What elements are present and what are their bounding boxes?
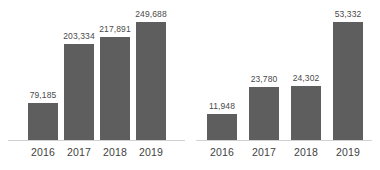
bar — [136, 22, 166, 140]
bar-slot: 79,185 — [26, 6, 60, 140]
bar — [207, 114, 237, 140]
x-axis-tick-labels: 2016 2017 2018 2019 — [0, 145, 190, 159]
bar-slot: 203,334 — [62, 6, 96, 140]
bar-chart-panel-right: 11,948 23,780 24,302 53,332 2016 2017 20… — [190, 0, 380, 170]
x-axis-line — [8, 140, 185, 141]
bar-slot: 53,332 — [330, 6, 366, 140]
axis-tick-label: 2017 — [246, 145, 282, 159]
axis-tick-label: 2016 — [204, 145, 240, 159]
bar-chart-panel-left: 79,185 203,334 217,891 249,688 2016 2017… — [0, 0, 190, 170]
bar-slot: 24,302 — [288, 6, 324, 140]
bar-value-label: 24,302 — [293, 73, 320, 83]
bar-value-label: 53,332 — [335, 9, 362, 19]
bar — [100, 37, 130, 140]
axis-tick-label: 2018 — [98, 145, 132, 159]
bar-value-label: 217,891 — [99, 24, 130, 34]
bar — [333, 22, 363, 140]
plot-area-left: 79,185 203,334 217,891 249,688 — [0, 6, 190, 140]
x-axis-line — [196, 140, 372, 141]
bar-slot: 217,891 — [98, 6, 132, 140]
axis-tick-label: 2016 — [26, 145, 60, 159]
plot-area-right: 11,948 23,780 24,302 53,332 — [190, 6, 380, 140]
bar — [64, 44, 94, 140]
axis-tick-label: 2019 — [330, 145, 366, 159]
bar-slot: 249,688 — [134, 6, 168, 140]
bar-slot: 11,948 — [204, 6, 240, 140]
dual-bar-chart-figure: 79,185 203,334 217,891 249,688 2016 2017… — [0, 0, 380, 170]
bar — [291, 86, 321, 140]
axis-tick-label: 2017 — [62, 145, 96, 159]
bar-value-label: 79,185 — [30, 90, 57, 100]
axis-tick-label: 2018 — [288, 145, 324, 159]
bar-slot: 23,780 — [246, 6, 282, 140]
bar — [28, 103, 58, 140]
bar-value-label: 249,688 — [135, 9, 166, 19]
bar-value-label: 23,780 — [251, 74, 278, 84]
axis-tick-label: 2019 — [134, 145, 168, 159]
bar-value-label: 11,948 — [209, 101, 235, 111]
bar-value-label: 203,334 — [63, 31, 94, 41]
bar — [249, 87, 279, 140]
x-axis-tick-labels: 2016 2017 2018 2019 — [190, 145, 380, 159]
